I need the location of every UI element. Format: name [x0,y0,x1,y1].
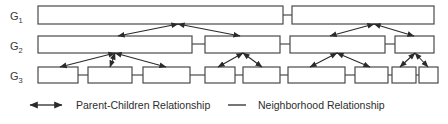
parent-child-edge [218,53,243,67]
parent-child-edge [415,53,428,67]
granule-node [38,36,192,53]
level-label-g1: G1 [10,10,23,25]
level-label-g3: G3 [10,70,23,85]
granule-node [205,36,280,53]
granule-node [38,6,283,24]
parent-child-edge [330,24,374,36]
granule-node [419,67,438,83]
granule-node [355,67,388,83]
granule-node [288,67,345,83]
granule-node [395,36,434,53]
parent-child-edge [110,53,115,67]
parent-child-edge [115,53,166,67]
granule-node [143,67,190,83]
granule-hierarchy-diagram: G1G2G3 Parent-Children RelationshipNeigh… [0,0,448,124]
parent-child-edge [178,24,240,36]
parent-child-edge [60,53,115,67]
legend-group: Parent-Children RelationshipNeighborhood… [30,99,385,111]
granule-node [392,67,416,83]
parent-child-edge [310,53,337,67]
granule-node [292,6,434,24]
diagram-canvas: G1G2G3 Parent-Children RelationshipNeigh… [0,0,448,124]
parent-child-edge [118,24,178,36]
parent-child-edge [243,53,262,67]
node-boxes-group [38,6,438,83]
granule-node [205,67,235,83]
granule-node [88,67,132,83]
parent-child-edge [337,53,370,67]
parent-child-edge [374,24,414,36]
granule-node [38,67,78,83]
granule-node [243,67,280,83]
level-labels-group: G1G2G3 [10,10,23,85]
legend-label-parent-children: Parent-Children Relationship [76,99,210,111]
parent-child-edge [400,53,415,67]
level-label-g2: G2 [10,40,23,55]
legend-label-neighborhood: Neighborhood Relationship [258,99,385,111]
granule-node [290,36,385,53]
